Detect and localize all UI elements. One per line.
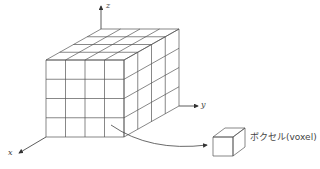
single-voxel-cube <box>213 128 245 156</box>
y-axis-label: y <box>201 100 206 109</box>
z-axis-label: z <box>106 1 110 10</box>
voxel-label: ボクセル(voxel) <box>250 130 317 143</box>
x-axis-label: x <box>8 148 13 157</box>
voxel-diagram <box>0 0 320 169</box>
x-axis <box>19 137 46 153</box>
curved-arrow <box>111 125 207 146</box>
voxel-grid-cube <box>46 29 179 137</box>
